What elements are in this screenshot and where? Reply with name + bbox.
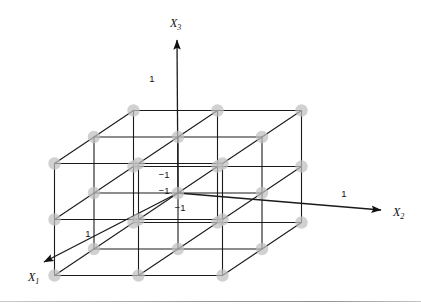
lattice-node (256, 131, 268, 143)
lattice-node (88, 243, 100, 255)
axis-arrow-x1 (44, 193, 178, 262)
lattice-node (211, 160, 223, 172)
lattice-node (88, 131, 100, 143)
tick-label-x1: 1 (85, 228, 90, 239)
lattice-node (132, 269, 144, 281)
lattice-node (295, 104, 307, 116)
lattice-node (127, 216, 139, 228)
lattice-node (48, 213, 60, 225)
lattice-node (127, 104, 139, 116)
lattice-node (256, 243, 268, 255)
tick-label-x2: 1 (341, 188, 346, 199)
lattice-node (48, 157, 60, 169)
tick-label-x3: −1 (159, 169, 170, 180)
lattice-nodes (48, 104, 307, 281)
axis-label-x2: X2 (392, 205, 404, 221)
axis-arrow-x3 (177, 40, 178, 193)
axis-arrow-x2 (178, 193, 381, 210)
bottom-rule (0, 301, 421, 302)
lattice-node (172, 187, 184, 199)
tick-label-x3: 1 (149, 73, 154, 84)
axis-label-x3: X3 (169, 16, 181, 32)
tick-label-x1: −1 (159, 185, 170, 196)
lattice-node (256, 187, 268, 199)
lattice-node (127, 160, 139, 172)
lattice-node (172, 131, 184, 143)
lattice-node (88, 187, 100, 199)
figure-text-layer: X1X2X3111−1−1−1 (27, 16, 404, 286)
lattice-node (172, 243, 184, 255)
lattice-node (48, 269, 60, 281)
lattice-node (211, 104, 223, 116)
lattice-node (295, 216, 307, 228)
lattice-node (295, 160, 307, 172)
axis-arrows (44, 40, 381, 262)
lattice-node (216, 269, 228, 281)
lattice-figure: X1X2X3111−1−1−1 (0, 0, 421, 307)
lattice-diagram: X1X2X3111−1−1−1 (0, 0, 421, 307)
tick-label-x2: −1 (175, 202, 186, 213)
lattice-node (211, 216, 223, 228)
axis-label-x1: X1 (27, 270, 39, 286)
